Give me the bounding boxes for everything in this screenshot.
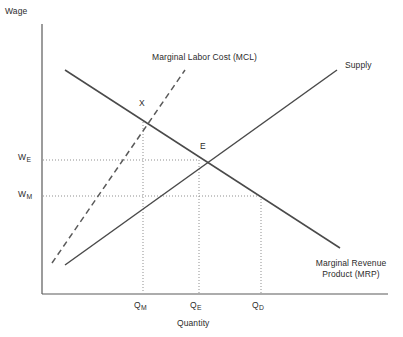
x-tick-qe-base: Q	[190, 300, 197, 310]
y-tick-label-wm: WM	[18, 189, 32, 200]
x-tick-label-qd: QD	[252, 300, 264, 311]
x-tick-qm-sub: M	[141, 304, 147, 311]
y-axis-label: Wage	[5, 6, 27, 16]
mcl-curve	[52, 70, 185, 263]
y-tick-we-base: W	[18, 152, 26, 162]
y-tick-wm-sub: M	[27, 193, 33, 200]
x-tick-label-qe: QE	[190, 300, 201, 311]
y-tick-label-we: WE	[18, 152, 31, 163]
y-tick-we-sub: E	[27, 156, 32, 163]
x-tick-qm-base: Q	[134, 300, 141, 310]
chart-canvas	[0, 0, 403, 337]
y-tick-wm-base: W	[18, 189, 26, 199]
monopsony-labor-market-diagram: Wage Quantity Marginal Labor Cost (MCL) …	[0, 0, 403, 337]
point-x-label: X	[139, 98, 145, 108]
mrp-label-line2: Product (MRP)	[322, 269, 380, 279]
point-e-label: E	[200, 141, 206, 151]
x-tick-label-qm: QM	[134, 300, 146, 311]
x-tick-qd-base: Q	[252, 300, 259, 310]
x-tick-qd-sub: D	[259, 304, 264, 311]
mrp-label-line1: Marginal Revenue	[316, 258, 387, 268]
x-tick-qe-sub: E	[197, 304, 202, 311]
mrp-curve-label: Marginal Revenue Product (MRP)	[301, 258, 401, 280]
supply-curve	[65, 70, 337, 265]
x-axis-label: Quantity	[177, 318, 209, 328]
mcl-curve-label: Marginal Labor Cost (MCL)	[152, 52, 257, 62]
supply-curve-label: Supply	[345, 60, 372, 70]
